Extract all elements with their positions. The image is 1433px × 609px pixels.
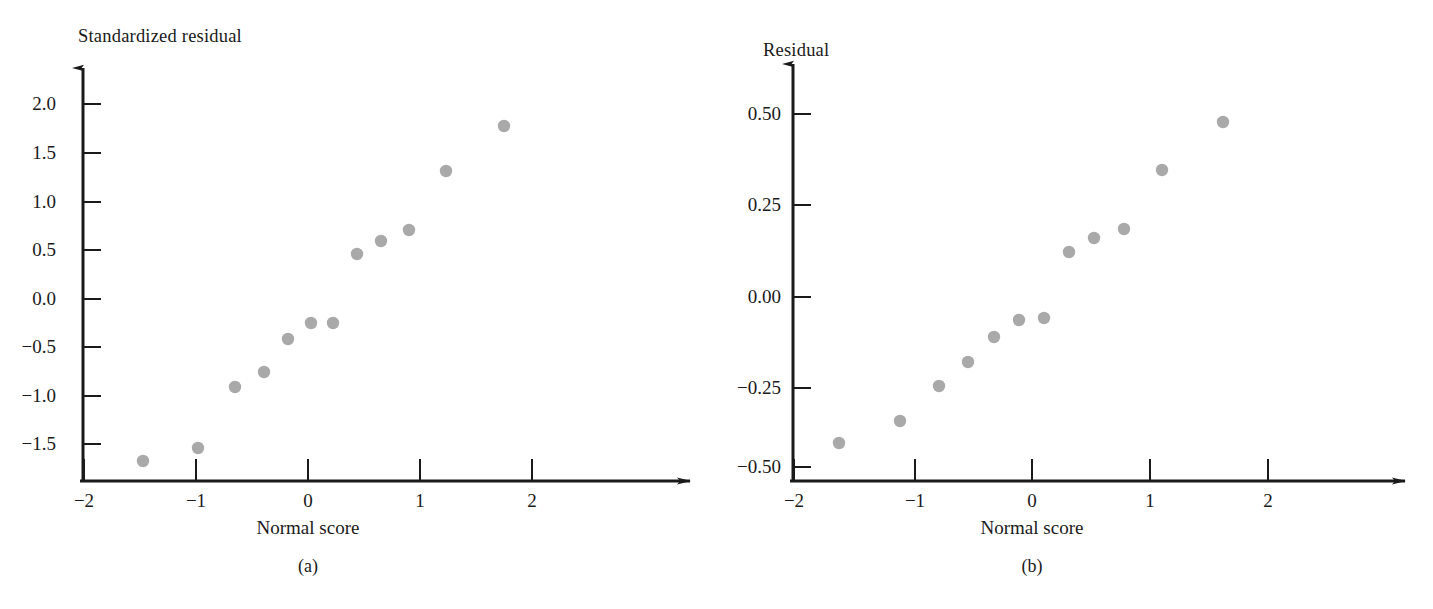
data-point [1088,232,1100,244]
y-tick-label: 0.0 [0,288,56,310]
x-tick-label: 1 [390,490,450,512]
data-point [440,165,452,177]
data-point [1038,312,1050,324]
y-tick-marks [793,114,811,467]
figure-container: Standardized residual 2.0 1.5 1.0 0.5 0.… [0,0,1433,609]
data-point [258,366,270,378]
y-tick-label: −1.0 [0,385,56,407]
y-tick-label: −0.50 [683,456,781,478]
y-tick-label: −1.5 [0,433,56,455]
y-axis-title: Standardized residual [78,26,242,47]
x-tick-marks [84,459,532,481]
x-tick-label: −1 [166,490,226,512]
data-point [933,380,945,392]
data-point [1063,246,1075,258]
data-point [327,317,339,329]
panel-caption: (b) [992,556,1072,577]
data-point [282,333,294,345]
data-point [192,442,204,454]
x-tick-label: −2 [54,490,114,512]
data-point [833,437,845,449]
data-point [375,235,387,247]
data-point [1156,164,1168,176]
y-tick-label: −0.25 [683,377,781,399]
y-tick-label: 0.50 [689,103,781,125]
data-point [1013,314,1025,326]
data-point [498,120,510,132]
data-point-group [833,116,1229,449]
x-tick-label: 0 [1002,490,1062,512]
scatter-panel-a: Standardized residual 2.0 1.5 1.0 0.5 0.… [0,0,717,609]
data-point [894,415,906,427]
y-tick-label: 2.0 [0,93,56,115]
data-point [962,356,974,368]
x-axis-title: Normal score [942,517,1122,539]
y-tick-marks [83,104,101,444]
data-point [1118,223,1130,235]
y-axis-title: Residual [763,40,829,61]
y-tick-label: 1.0 [0,191,56,213]
x-tick-label: 0 [278,490,338,512]
data-point [305,317,317,329]
data-point [403,224,415,236]
y-tick-label: 1.5 [0,142,56,164]
y-tick-label: 0.00 [689,286,781,308]
panel-caption: (a) [268,556,348,577]
x-tick-label: 2 [1238,490,1298,512]
data-point [1217,116,1229,128]
x-axis-title: Normal score [218,517,398,539]
y-tick-label: 0.25 [689,194,781,216]
y-tick-label: 0.5 [0,239,56,261]
x-tick-label: 1 [1120,490,1180,512]
data-point [988,331,1000,343]
data-point [351,248,363,260]
x-tick-label: −2 [764,490,824,512]
x-tick-label: −1 [885,490,945,512]
data-point [137,455,149,467]
x-tick-label: 2 [502,490,562,512]
data-point [229,381,241,393]
x-tick-marks [794,459,1268,481]
scatter-panel-b: Residual 0.50 0.25 0.00 −0.25 −0.50 −2 −… [717,0,1433,609]
y-tick-label: −0.5 [0,336,56,358]
data-point-group [137,120,510,467]
